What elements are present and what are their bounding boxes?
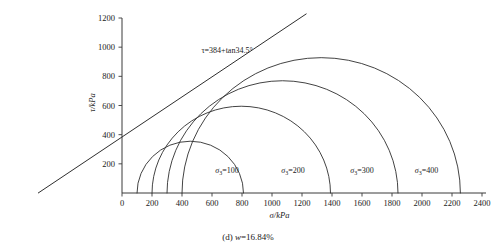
mohr-circle-figure: 0200400600800100012001400160018002000220… [0,0,496,247]
x-axis-tick-label: 1600 [354,198,371,208]
y-axis-tick-label: 1000 [98,42,115,52]
y-axis-tick-label: 800 [102,71,115,81]
x-axis-tick-label: 1000 [264,198,281,208]
axes-group: 0200400600800100012001400160018002000220… [87,13,491,220]
x-axis-title-unit: /kPa [273,210,290,220]
series-label-value: =200 [288,166,305,175]
x-axis-tick-label: 800 [236,198,249,208]
series-label-value: =400 [422,166,439,175]
mohr-circle-200 [152,106,331,193]
series-label-value: =300 [357,166,374,175]
labels-group: σ3=100σ3=200σ3=300σ3=400τ=384+tan34.5°(d… [201,46,438,242]
x-axis-tick-label: 2200 [444,198,461,208]
series-label-400: σ3=400 [415,166,438,176]
x-axis-tick-label: 2000 [414,198,431,208]
mohr-circle-300 [167,81,398,193]
x-axis-tick-label: 2400 [474,198,491,208]
y-axis-tick-label: 1200 [98,13,115,23]
figure-caption-value: =16.84% [241,232,274,242]
failure-envelope-equation: τ=384+tan34.5° [201,46,252,55]
x-axis-tick-label: 1800 [384,198,401,208]
x-axis-tick-label: 200 [146,198,159,208]
x-axis-tick-label: 600 [206,198,219,208]
y-axis-tick-label: 400 [102,130,115,140]
y-axis-tick-label: 200 [102,159,115,169]
failure-envelope-line [38,14,307,193]
y-axis-tick-label: 600 [102,101,115,111]
series-label-value: =100 [222,166,239,175]
x-axis-tick-label: 1400 [324,198,341,208]
figure-caption-index: (d) [222,232,235,242]
x-axis-tick-label: 1200 [294,198,311,208]
series-label-100: σ3=100 [215,166,238,176]
y-axis-title: τ/kPa [87,93,97,112]
mohr-circle-plot: 0200400600800100012001400160018002000220… [0,0,496,247]
y-axis-title-unit: /kPa [87,93,97,110]
series-label-200: σ3=200 [281,166,304,176]
x-axis-tick-label: 400 [176,198,189,208]
series-label-300: σ3=300 [350,166,373,176]
figure-caption: (d) w=16.84% [222,232,274,242]
x-axis-tick-label: 0 [120,198,124,208]
x-axis-title: σ/kPa [270,210,290,220]
